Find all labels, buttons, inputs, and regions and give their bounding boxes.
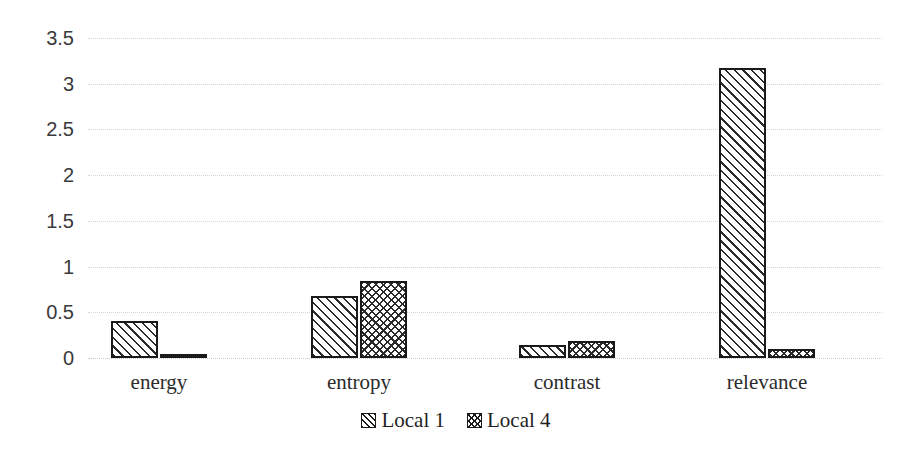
x-tick-label-energy: energy bbox=[69, 370, 249, 395]
y-tick-label: 3 bbox=[0, 74, 74, 94]
y-axis: 00.511.522.533.5 bbox=[0, 0, 74, 458]
zero-baseline bbox=[88, 358, 882, 359]
y-tick-label: 0.5 bbox=[0, 302, 74, 322]
bar-relevance-local-1 bbox=[719, 68, 766, 358]
legend-label: Local 1 bbox=[381, 408, 445, 433]
legend-swatch-diagonal-stripe-icon bbox=[361, 413, 376, 428]
x-tick-label-entropy: entropy bbox=[269, 370, 449, 395]
bar-chart: 00.511.522.533.5 energyentropycontrastre… bbox=[0, 0, 912, 458]
y-tick-label: 0 bbox=[0, 348, 74, 368]
y-tick-label: 1 bbox=[0, 257, 74, 277]
y-tick-label: 3.5 bbox=[0, 28, 74, 48]
gridline bbox=[88, 38, 882, 39]
legend-label: Local 4 bbox=[487, 408, 551, 433]
x-tick-label-relevance: relevance bbox=[677, 370, 857, 395]
legend-item-local-4[interactable]: Local 4 bbox=[467, 408, 551, 433]
chart-legend: Local 1Local 4 bbox=[0, 408, 912, 433]
y-tick-label: 1.5 bbox=[0, 211, 74, 231]
bar-energy-local-1 bbox=[111, 321, 158, 358]
y-tick-label: 2 bbox=[0, 165, 74, 185]
y-tick-label: 2.5 bbox=[0, 119, 74, 139]
legend-item-local-1[interactable]: Local 1 bbox=[361, 408, 445, 433]
bar-relevance-local-4 bbox=[768, 349, 815, 358]
x-tick-label-contrast: contrast bbox=[477, 370, 657, 395]
legend-swatch-crosshatch-icon bbox=[467, 413, 482, 428]
bar-entropy-local-1 bbox=[311, 296, 358, 358]
bar-contrast-local-1 bbox=[519, 345, 566, 358]
bar-entropy-local-4 bbox=[360, 281, 407, 358]
bar-energy-local-4 bbox=[160, 354, 207, 358]
bar-contrast-local-4 bbox=[568, 341, 615, 358]
